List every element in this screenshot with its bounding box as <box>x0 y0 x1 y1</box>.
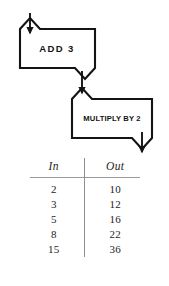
multiply-machine-label: MULTIPLY BY 2 <box>83 114 140 123</box>
table-row: 5 16 <box>30 212 140 227</box>
function-machine-diagram: ADD 3 MULTIPLY BY 2 <box>0 0 169 160</box>
table-row: 15 36 <box>30 242 140 257</box>
io-table: In Out 2 10 3 12 5 16 8 22 15 36 <box>30 158 140 257</box>
table-row: 2 10 <box>30 178 140 197</box>
table-row: 8 22 <box>30 227 140 242</box>
io-table-body: 2 10 3 12 5 16 8 22 15 36 <box>30 178 140 257</box>
column-header-in: In <box>30 158 85 178</box>
input-arrow-icon <box>26 13 33 35</box>
cell-in: 3 <box>30 197 85 212</box>
column-header-out: Out <box>85 158 140 178</box>
table-row: 3 12 <box>30 197 140 212</box>
cell-in: 5 <box>30 212 85 227</box>
cell-out: 12 <box>85 197 140 212</box>
io-table-header-row: In Out <box>30 158 140 178</box>
diagram-canvas: ADD 3 MULTIPLY BY 2 <box>0 0 169 160</box>
add-machine-label: ADD 3 <box>39 43 75 54</box>
cell-in: 2 <box>30 178 85 197</box>
cell-out: 10 <box>85 178 140 197</box>
io-table-head: In Out <box>30 158 140 178</box>
io-table-container: In Out 2 10 3 12 5 16 8 22 15 36 <box>0 158 169 286</box>
output-arrow-icon <box>138 132 145 154</box>
cell-out: 22 <box>85 227 140 242</box>
cell-out: 16 <box>85 212 140 227</box>
cell-in: 15 <box>30 242 85 257</box>
cell-out: 36 <box>85 242 140 257</box>
cell-in: 8 <box>30 227 85 242</box>
